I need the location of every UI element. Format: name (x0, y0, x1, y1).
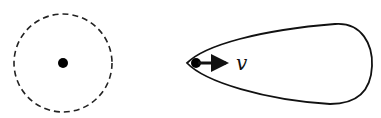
diagram-svg: v (0, 0, 381, 118)
center-dot (58, 58, 68, 68)
right-figure: v (187, 24, 372, 104)
diagram-canvas: v (0, 0, 381, 118)
velocity-label: v (236, 51, 248, 75)
left-figure (14, 14, 112, 112)
